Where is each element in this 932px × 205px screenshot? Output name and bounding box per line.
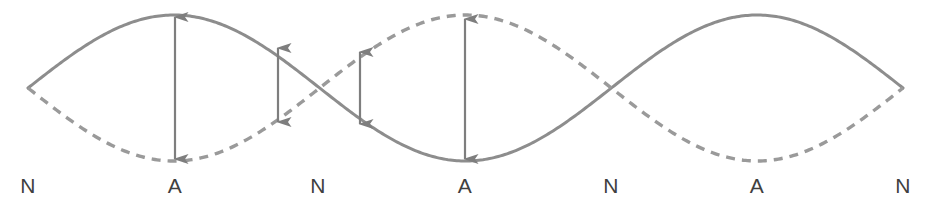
standing-wave-diagram: NANANAN — [0, 0, 932, 205]
wave-canvas — [0, 0, 932, 205]
